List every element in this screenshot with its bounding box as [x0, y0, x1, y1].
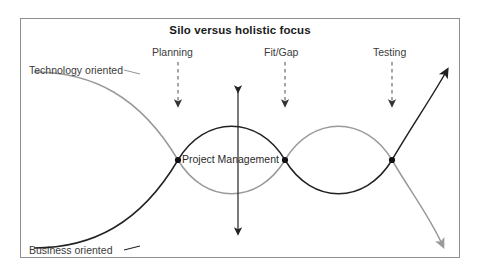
label-project-management: Project Management [182, 153, 279, 165]
label-milestone-planning: Planning [152, 46, 193, 58]
label-milestone-fitgap: Fit/Gap [264, 46, 298, 58]
crossing-dot-fitgap [282, 157, 288, 163]
label-milestone-testing: Testing [373, 46, 406, 58]
crossing-dot-testing [389, 157, 395, 163]
label-business-oriented: Business oriented [29, 244, 112, 256]
label-technology-oriented: Technology oriented [29, 64, 123, 76]
diagram-canvas [0, 0, 477, 274]
crossing-dot-planning [175, 157, 181, 163]
technology-leader-line [124, 70, 140, 74]
business-leader-line [124, 246, 140, 250]
diagram-root: Silo versus holistic focus [0, 0, 477, 274]
